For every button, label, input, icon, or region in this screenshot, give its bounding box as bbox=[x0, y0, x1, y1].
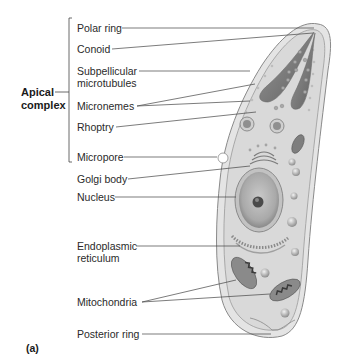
label-mitochondria: Mitochondria bbox=[77, 296, 137, 308]
label-micropore: Micropore bbox=[77, 151, 124, 163]
label-nucleus: Nucleus bbox=[77, 191, 115, 203]
label-subpellicular-line2: microtubules bbox=[77, 77, 137, 89]
apical-complex-line2: complex bbox=[21, 99, 66, 112]
cell-diagram bbox=[0, 0, 351, 358]
label-subpellicular-line1: Subpellicular bbox=[77, 65, 137, 77]
figure-caption: (a) bbox=[26, 342, 39, 354]
label-er-line1: Endoplasmic bbox=[77, 240, 137, 252]
label-er-line2: reticulum bbox=[77, 252, 137, 264]
label-micronemes: Micronemes bbox=[77, 100, 134, 112]
label-rhoptry: Rhoptry bbox=[77, 121, 114, 133]
micropore bbox=[218, 153, 228, 163]
label-golgi-body: Golgi body bbox=[77, 173, 127, 185]
label-subpellicular-microtubules: Subpellicular microtubules bbox=[77, 65, 137, 89]
apical-complex-label: Apical complex bbox=[21, 86, 66, 112]
label-conoid: Conoid bbox=[77, 43, 110, 55]
apical-complex-line1: Apical bbox=[21, 86, 66, 99]
label-posterior-ring: Posterior ring bbox=[77, 328, 139, 340]
label-endoplasmic-reticulum: Endoplasmic reticulum bbox=[77, 240, 137, 264]
apical-complex-bracket bbox=[69, 18, 72, 162]
label-polar-ring: Polar ring bbox=[77, 22, 122, 34]
nucleolus bbox=[253, 197, 264, 208]
